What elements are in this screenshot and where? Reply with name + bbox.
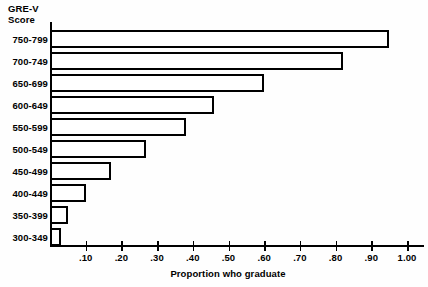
bar-rect <box>50 140 146 158</box>
x-tick-mark <box>193 241 195 251</box>
category-label-350-399: 350-399 <box>0 210 48 221</box>
bar-chart: GRE-V Score 750-799700-749650-699600-649… <box>0 0 428 287</box>
x-tick-mark <box>300 241 302 251</box>
x-tick-mark <box>229 241 231 251</box>
x-tick-mark <box>407 241 409 251</box>
x-tick-label-.10: .10 <box>66 252 106 263</box>
x-tick-label-.90: .90 <box>351 252 391 263</box>
x-tick-mark <box>336 241 338 251</box>
x-tick-mark <box>157 241 159 251</box>
bar-rect <box>50 30 389 48</box>
x-tick-mark <box>86 241 88 251</box>
y-axis-title-line-1: GRE-V <box>8 3 39 14</box>
x-tick-label-.30: .30 <box>137 252 177 263</box>
bar-rect <box>50 184 86 202</box>
category-label-700-749: 700-749 <box>0 56 48 67</box>
x-tick-label-.50: .50 <box>209 252 249 263</box>
bar-rect <box>50 228 61 246</box>
bar-rect <box>50 52 343 70</box>
y-axis-title-line-2: Score <box>8 14 39 25</box>
category-label-650-699: 650-699 <box>0 78 48 89</box>
category-label-300-349: 300-349 <box>0 232 48 243</box>
x-axis-title: Proportion who graduate <box>0 268 428 279</box>
x-axis-line <box>50 245 424 247</box>
category-label-550-599: 550-599 <box>0 122 48 133</box>
category-label-600-649: 600-649 <box>0 100 48 111</box>
x-tick-mark <box>371 241 373 251</box>
x-tick-label-1.00: 1.00 <box>387 252 427 263</box>
x-tick-label-.40: .40 <box>173 252 213 263</box>
x-tick-label-.80: .80 <box>316 252 356 263</box>
category-label-500-549: 500-549 <box>0 144 48 155</box>
bar-rect <box>50 74 264 92</box>
x-tick-label-.60: .60 <box>244 252 284 263</box>
bar-rect <box>50 162 111 180</box>
x-axis-title-text: Proportion who graduate <box>170 268 285 279</box>
bar-rect <box>50 206 68 224</box>
x-tick-mark <box>264 241 266 251</box>
category-label-400-449: 400-449 <box>0 188 48 199</box>
bar-rect <box>50 96 214 114</box>
category-label-750-799: 750-799 <box>0 34 48 45</box>
category-label-450-499: 450-499 <box>0 166 48 177</box>
x-tick-label-.20: .20 <box>101 252 141 263</box>
x-tick-label-.70: .70 <box>280 252 320 263</box>
bar-rect <box>50 118 186 136</box>
y-axis-title: GRE-V Score <box>8 3 39 25</box>
x-tick-mark <box>121 241 123 251</box>
